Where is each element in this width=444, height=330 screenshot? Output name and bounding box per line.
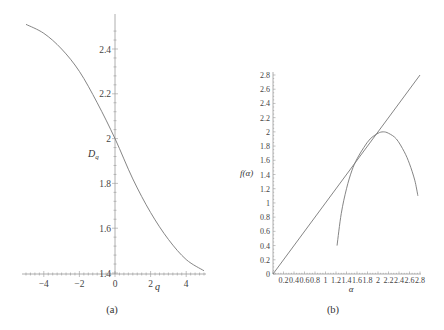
caption-a: (a) [106,304,118,316]
x-tick-label: −4 [39,279,49,289]
x-tick-label: 2 [148,279,153,289]
series-line [337,132,418,246]
y-tick-label: 1.8 [99,179,111,189]
y-tick-label: 0.8 [260,213,270,222]
chart-b: 0.20.40.60.811.21.41.61.822.22.42.62.800… [240,71,425,316]
y-tick-label: 1.6 [99,224,111,234]
x-tick-label: 1.2 [331,276,341,285]
y-tick-label: 1.6 [260,156,270,165]
x-tick-label: 2.6 [405,276,415,285]
x-axis-label: α [349,284,354,294]
series-line [273,75,420,274]
x-tick-label: 2 [376,276,380,285]
y-tick-label: 1 [266,199,270,208]
caption-b: (b) [327,304,340,316]
x-tick-label: −2 [74,279,84,289]
y-tick-label: 1.8 [260,142,270,151]
y-tick-label: 2 [266,128,270,137]
y-tick-label: 2.2 [260,114,270,123]
x-tick-label: 2.8 [415,276,425,285]
figure: −4−20241.41.61.822.22.4Dqq(a)0.20.40.60.… [0,0,444,330]
x-tick-label: 0.2 [279,276,289,285]
x-tick-label: 2.4 [394,276,404,285]
y-tick-label: 2.6 [260,85,270,94]
y-tick-label: 2.8 [260,71,270,80]
x-tick-label: 0.6 [300,276,310,285]
y-tick-label: 1.4 [99,269,111,279]
x-tick-label: 4 [184,279,189,289]
y-tick-label: 1.2 [260,185,270,194]
y-axis-label: Dq [87,148,99,161]
y-tick-label: 2.2 [99,89,111,99]
y-tick-label: 0.2 [260,256,270,265]
y-tick-label: 0 [266,270,270,279]
x-tick-label: 0.8 [310,276,320,285]
x-tick-label: 0 [113,279,118,289]
x-tick-label: 1.6 [352,276,362,285]
y-tick-label: 1.4 [260,171,270,180]
x-tick-label: 2.2 [384,276,394,285]
x-tick-label: 1 [324,276,328,285]
y-tick-label: 2.4 [99,45,111,55]
y-tick-label: 2.4 [260,99,270,108]
chart-a: −4−20241.41.61.822.22.4Dqq(a) [22,14,206,316]
y-tick-label: 0.4 [260,242,270,251]
x-tick-label: 0.4 [289,276,299,285]
y-tick-label: 2 [106,134,111,144]
y-tick-label: 0.6 [260,227,270,236]
y-axis-label: f(α) [240,168,253,178]
x-tick-label: 1.8 [363,276,373,285]
x-axis-label: q [155,281,160,292]
